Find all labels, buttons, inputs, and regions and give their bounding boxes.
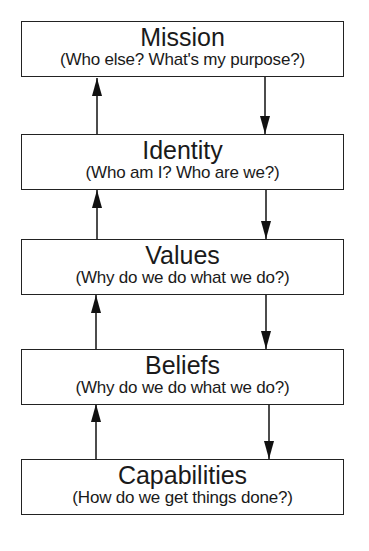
arrow-up-identity-to-mission [92, 78, 102, 135]
level-subtitle: (Why do we do what we do?) [22, 378, 343, 398]
level-box-beliefs: Beliefs (Why do we do what we do?) [21, 349, 344, 405]
level-subtitle: (Who am I? Who are we?) [22, 163, 343, 183]
arrow-up-values-to-identity [92, 190, 102, 239]
arrow-up-capabilities-to-beliefs [91, 404, 101, 459]
level-title: Beliefs [22, 352, 343, 378]
level-subtitle: (Who else? What's my purpose?) [22, 50, 343, 70]
level-box-mission: Mission (Who else? What's my purpose?) [21, 21, 344, 77]
level-box-identity: Identity (Who am I? Who are we?) [21, 134, 344, 190]
level-box-values: Values (Why do we do what we do?) [21, 239, 344, 295]
level-title: Values [22, 242, 343, 268]
level-title: Capabilities [22, 462, 343, 488]
level-title: Mission [22, 24, 343, 50]
level-box-capabilities: Capabilities (How do we get things done?… [21, 459, 344, 515]
arrow-up-beliefs-to-values [91, 295, 101, 349]
level-title: Identity [22, 137, 343, 163]
arrow-down-mission-to-identity [260, 77, 270, 134]
arrow-down-identity-to-values [261, 189, 271, 239]
level-subtitle: (Why do we do what we do?) [22, 268, 343, 288]
arrow-down-values-to-beliefs [261, 295, 271, 349]
level-subtitle: (How do we get things done?) [22, 488, 343, 508]
arrow-down-beliefs-to-capabilities [264, 404, 274, 459]
